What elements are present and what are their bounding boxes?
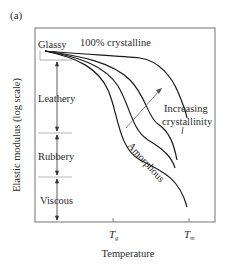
crystallinity-leader-line	[182, 127, 183, 134]
tick-label-tg: Tg	[109, 228, 118, 241]
curve-high-crystallinity	[45, 51, 177, 160]
tick-label-tm: Tm	[184, 228, 195, 241]
x-axis-label: Temperature	[102, 248, 155, 259]
region-rubbery: Rubbery	[38, 151, 75, 162]
label-crystallinity: crystallinity	[162, 116, 213, 127]
label-increasing: Increasing	[164, 103, 208, 114]
y-axis-label: Elastic modulus (log scale)	[11, 77, 23, 192]
region-glassy: Glassy	[38, 39, 67, 50]
label-100-crystalline: 100% crystalline	[80, 37, 151, 48]
panel-label: (a)	[10, 9, 23, 22]
increasing-crystallinity-arrow	[126, 90, 160, 128]
curve-amorphous	[45, 51, 187, 207]
modulus-temperature-diagram: (a) Elastic modulus (log scale) Glassy L…	[0, 0, 229, 271]
label-amorphous: Amorphous	[126, 140, 167, 184]
modulus-curves	[45, 51, 187, 207]
